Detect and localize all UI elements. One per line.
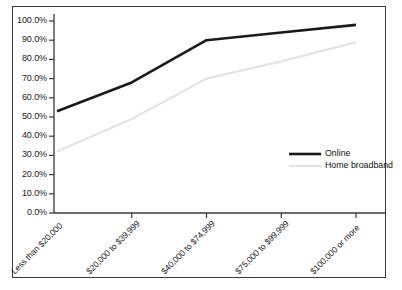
y-axis-tick-label: 60.0%	[5, 92, 47, 102]
y-axis-tick-label: 80.0%	[5, 53, 47, 63]
y-axis-tick-label: 100.0%	[5, 15, 47, 25]
legend-swatches	[289, 154, 321, 166]
series-line-online	[57, 25, 356, 111]
y-axis-tick-label: 10.0%	[5, 188, 47, 198]
y-axis-tick-label: 30.0%	[5, 149, 47, 159]
y-axis-tick-label: 20.0%	[5, 169, 47, 179]
y-axis-ticks	[49, 21, 54, 213]
y-axis-tick-label: 40.0%	[5, 130, 47, 140]
legend-label-home-broadband: Home broadband	[325, 160, 393, 170]
x-axis-ticks	[132, 213, 356, 218]
series-line-home-broadband	[57, 42, 356, 151]
y-axis-tick-label: 50.0%	[5, 111, 47, 121]
series-lines	[57, 25, 356, 152]
y-axis-tick-label: 90.0%	[5, 34, 47, 44]
y-axis-tick-label: 0.0%	[5, 207, 47, 217]
y-axis-tick-label: 70.0%	[5, 73, 47, 83]
chart-frame: 100.0%90.0%80.0%70.0%60.0%50.0%40.0%30.0…	[12, 6, 386, 278]
legend-label-online: Online	[325, 148, 350, 158]
